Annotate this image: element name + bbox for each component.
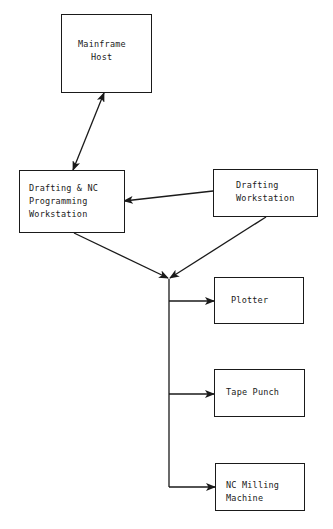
nc-milling-label-line2: Machine — [226, 492, 263, 505]
drafting-nc-label-line2: Programming — [29, 195, 88, 208]
tape-punch-box: Tape Punch — [214, 369, 305, 417]
nc-milling-machine-box: NC Milling Machine — [215, 463, 305, 511]
mainframe-to-drafting-nc-arrow — [73, 93, 104, 170]
drafting-nc-to-junction-arrow — [74, 233, 168, 278]
drafting-ws-label-line2: Workstation — [236, 192, 295, 205]
mainframe-host-label-line2: Host — [91, 51, 112, 64]
plotter-box: Plotter — [214, 277, 304, 324]
drafting-nc-workstation-box: Drafting & NC Programming Workstation — [19, 170, 125, 233]
drafting-nc-label-line1: Drafting & NC — [29, 182, 98, 195]
nc-milling-label-line1: NC Milling — [226, 479, 279, 492]
drafting-ws-to-drafting-nc-arrow — [124, 191, 213, 201]
tape-punch-label: Tape Punch — [226, 386, 279, 399]
drafting-workstation-box: Drafting Workstation — [213, 169, 318, 217]
connector-layer — [0, 0, 333, 529]
drafting-ws-to-junction-arrow — [170, 217, 266, 278]
drafting-ws-label-line1: Drafting — [236, 179, 279, 192]
mainframe-host-label-line1: Mainframe — [78, 38, 126, 51]
drafting-nc-label-line3: Workstation — [29, 208, 88, 221]
plotter-label: Plotter — [231, 294, 268, 307]
mainframe-host-box: Mainframe Host — [61, 14, 152, 93]
